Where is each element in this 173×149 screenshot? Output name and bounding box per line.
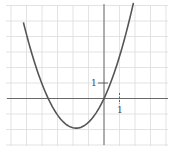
x-tick-label: 1 bbox=[117, 105, 123, 115]
grid-lines bbox=[6, 5, 168, 146]
parabola-plot: 1 1 bbox=[0, 0, 173, 149]
y-tick-label: 1 bbox=[91, 78, 97, 88]
